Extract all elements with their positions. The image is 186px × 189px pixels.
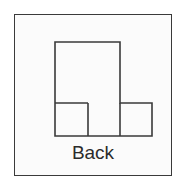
figure-caption: Back <box>14 142 172 164</box>
screenshot-root: Back <box>0 0 186 189</box>
